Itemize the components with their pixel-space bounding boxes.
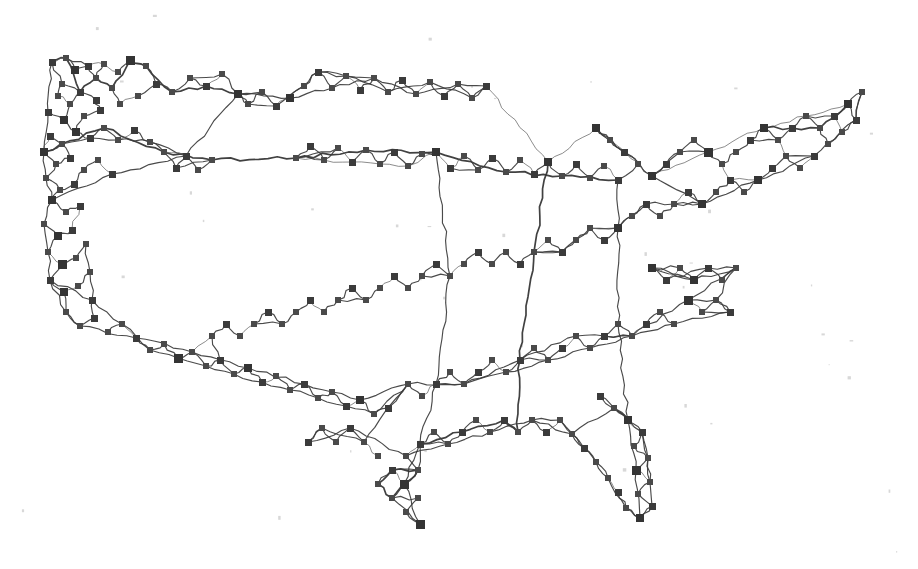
- scan-speck: [429, 38, 432, 41]
- network-node: [649, 503, 656, 510]
- network-node: [433, 261, 440, 268]
- map-canvas: [0, 0, 918, 569]
- network-node: [329, 389, 335, 395]
- network-node: [244, 364, 252, 372]
- network-node: [643, 321, 650, 328]
- network-node: [389, 467, 396, 474]
- network-node: [645, 455, 651, 461]
- network-node: [503, 169, 509, 175]
- network-node: [825, 141, 831, 147]
- network-node: [48, 196, 56, 204]
- network-node: [87, 269, 93, 275]
- network-node: [119, 321, 125, 327]
- network-node: [375, 453, 381, 459]
- network-node: [789, 125, 796, 132]
- network-node: [419, 273, 425, 279]
- network-node: [760, 124, 768, 132]
- network-node: [727, 177, 734, 184]
- scan-speck: [350, 450, 351, 452]
- network-node: [315, 395, 321, 401]
- network-node: [217, 357, 224, 364]
- network-node: [234, 90, 242, 98]
- network-node: [445, 441, 451, 447]
- network-node: [60, 288, 68, 296]
- network-node: [343, 403, 350, 410]
- network-node: [343, 73, 349, 79]
- network-node: [559, 249, 566, 256]
- network-node: [581, 445, 588, 452]
- network-node: [529, 417, 535, 423]
- network-node: [67, 155, 74, 162]
- network-node: [109, 85, 115, 91]
- scan-speck: [153, 15, 157, 17]
- network-node: [487, 429, 493, 435]
- network-node: [55, 93, 61, 99]
- network-node: [783, 153, 789, 159]
- network-node: [293, 155, 299, 161]
- network-node: [77, 89, 84, 96]
- scan-speck: [710, 423, 712, 425]
- network-node: [189, 349, 195, 355]
- network-node: [287, 387, 293, 393]
- network-node: [143, 63, 149, 69]
- network-node: [147, 347, 153, 353]
- network-node: [419, 393, 425, 399]
- network-node: [361, 439, 367, 445]
- network-node: [705, 265, 712, 272]
- network-node: [459, 429, 466, 436]
- network-node: [615, 177, 622, 184]
- scan-speck: [424, 450, 426, 452]
- network-node: [259, 379, 266, 386]
- network-node: [531, 345, 537, 351]
- network-node: [385, 89, 391, 95]
- network-node: [279, 321, 285, 327]
- network-node: [433, 381, 440, 388]
- network-node: [531, 249, 537, 255]
- network-node: [636, 514, 644, 522]
- network-node: [173, 165, 180, 172]
- network-node: [607, 137, 613, 143]
- network-node: [319, 425, 325, 431]
- network-node: [58, 260, 67, 269]
- network-node: [60, 116, 68, 124]
- network-node: [475, 249, 482, 256]
- scan-speck: [645, 252, 647, 256]
- network-node: [131, 127, 138, 134]
- network-node: [635, 161, 641, 167]
- network-node: [623, 505, 629, 511]
- scan-speck: [96, 27, 99, 30]
- network-node: [349, 159, 356, 166]
- network-node: [203, 83, 210, 90]
- network-node: [647, 479, 653, 485]
- network-node: [597, 393, 604, 400]
- network-node: [101, 125, 107, 131]
- network-node: [77, 203, 84, 210]
- network-node: [515, 429, 521, 435]
- network-node: [817, 125, 823, 131]
- scan-speck: [190, 191, 192, 194]
- network-node: [593, 459, 599, 465]
- network-node: [389, 495, 395, 501]
- network-node: [719, 277, 725, 283]
- network-node: [741, 189, 747, 195]
- network-node: [405, 285, 411, 291]
- scan-speck: [623, 468, 627, 471]
- network-node: [286, 94, 294, 102]
- network-node: [59, 81, 65, 87]
- network-node: [441, 93, 448, 100]
- network-node: [631, 443, 637, 449]
- scan-speck: [822, 333, 825, 335]
- network-node: [335, 145, 341, 151]
- network-node: [91, 315, 98, 322]
- network-node: [461, 261, 467, 267]
- network-node: [811, 153, 818, 160]
- scan-speck: [734, 88, 737, 90]
- network-node: [417, 441, 424, 448]
- network-node: [432, 148, 440, 156]
- scan-speck: [848, 376, 851, 379]
- network-node: [611, 405, 617, 411]
- network-node: [89, 297, 96, 304]
- network-node: [301, 83, 307, 89]
- network-node: [544, 158, 552, 166]
- network-node: [223, 321, 230, 328]
